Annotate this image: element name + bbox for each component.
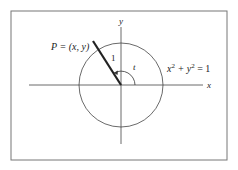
unit-circle-diagram: y x P = (x, y) 1 t x2 + y2 = 1 xyxy=(0,0,238,170)
point-label: P = (x, y) xyxy=(50,41,90,53)
radius-segment xyxy=(93,41,121,85)
angle-label: t xyxy=(133,62,136,72)
x-axis-label: x xyxy=(206,80,211,90)
circle-equation: x2 + y2 = 1 xyxy=(166,62,210,74)
y-axis-label: y xyxy=(118,16,123,26)
frame xyxy=(11,11,227,160)
radius-label: 1 xyxy=(111,53,116,63)
